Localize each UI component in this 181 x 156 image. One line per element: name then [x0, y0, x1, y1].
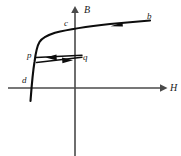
- h-axis-arrowhead: [160, 84, 168, 92]
- point-label-d: d: [22, 75, 27, 85]
- h-axis-label: H: [169, 82, 178, 93]
- point-label-q: q: [83, 52, 88, 62]
- point-label-p: p: [26, 50, 32, 60]
- bh-curve-svg: B H b c p q d: [0, 0, 181, 156]
- b-axis-arrowhead: [71, 6, 79, 13]
- b-axis-label: B: [84, 4, 90, 15]
- bh-curve-figure: B H b c p q d: [0, 0, 181, 156]
- point-label-c: c: [64, 18, 68, 28]
- point-label-b: b: [147, 11, 152, 21]
